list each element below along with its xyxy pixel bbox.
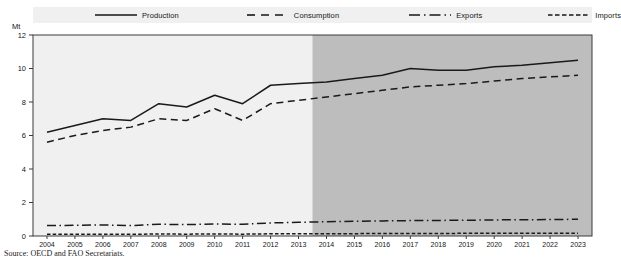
y-tick-label: 10	[18, 64, 26, 73]
y-tick-label: 12	[18, 31, 26, 40]
x-tick-label: 2015	[347, 241, 363, 248]
y-tick-label: 6	[22, 131, 26, 140]
y-tick-labels: 024681012	[18, 31, 26, 241]
y-tick-label: 2	[22, 198, 26, 207]
x-tick-label: 2009	[179, 241, 195, 248]
x-tick-label: 2011	[235, 241, 250, 248]
y-tick-label: 4	[22, 165, 26, 174]
x-tick-label: 2023	[570, 241, 586, 248]
x-tick-label: 2010	[207, 241, 223, 248]
x-tick-label: 2012	[263, 241, 279, 248]
x-tick-label: 2013	[291, 241, 307, 248]
x-tick-label: 2007	[123, 241, 139, 248]
x-tick-label: 2004	[39, 241, 55, 248]
plot-backgrounds	[33, 35, 592, 236]
x-tick-label: 2022	[542, 241, 558, 248]
x-tick-label: 2014	[319, 241, 335, 248]
y-tick-label: 8	[22, 98, 26, 107]
x-tick-labels: 2004200520062007200820092010201120122013…	[39, 241, 586, 248]
x-tick-label: 2020	[486, 241, 502, 248]
x-tick-label: 2019	[458, 241, 474, 248]
y-tick-label: 0	[22, 232, 26, 241]
source-note: Source: OECD and FAO Secretariats.	[4, 249, 125, 258]
x-tick-label: 2008	[151, 241, 167, 248]
projection-background	[313, 35, 593, 236]
x-tick-label: 2006	[95, 241, 111, 248]
x-tick-label: 2005	[67, 241, 83, 248]
x-tick-label: 2018	[430, 241, 446, 248]
x-tick-label: 2017	[403, 241, 419, 248]
x-tick-label: 2016	[375, 241, 391, 248]
x-tick-label: 2021	[514, 241, 530, 248]
